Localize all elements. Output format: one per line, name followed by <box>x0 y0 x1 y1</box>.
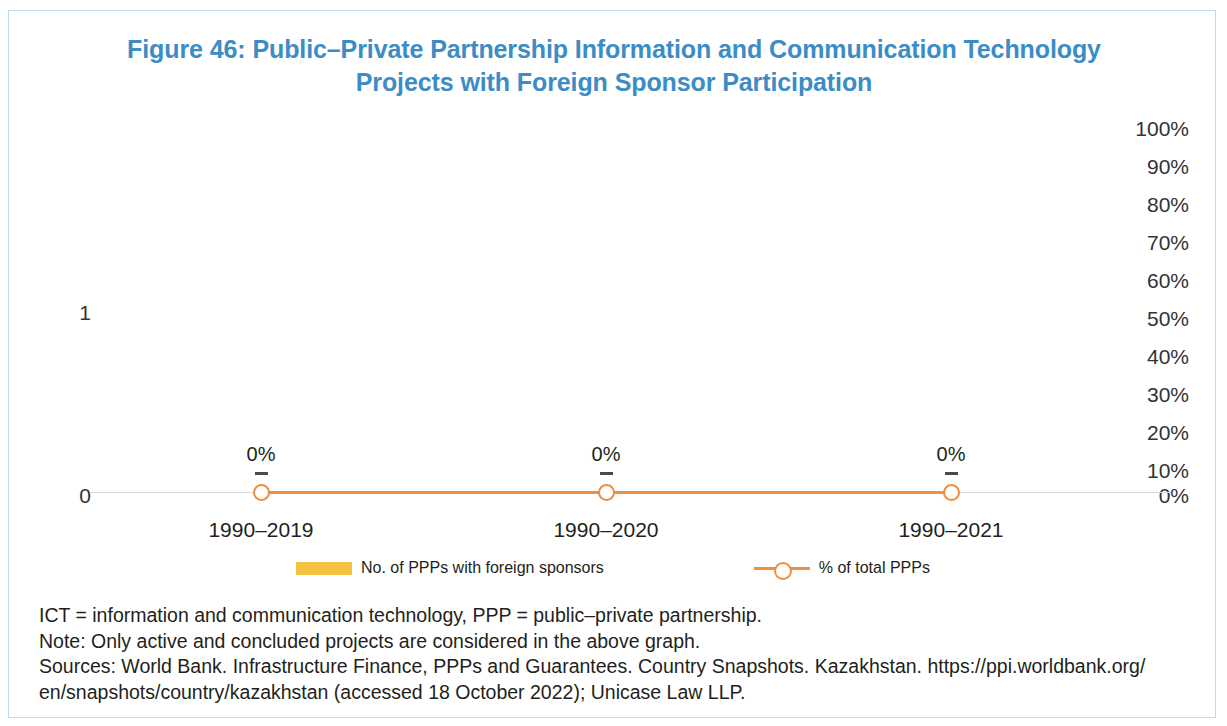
y-right-tick-10: 10% <box>1099 460 1189 481</box>
legend-line-marker-icon <box>754 561 810 576</box>
data-label-2: 0% <box>891 443 1011 466</box>
legend-bar-swatch-icon <box>296 562 352 575</box>
legend-label-ppp-count: No. of PPPs with foreign sponsors <box>361 559 604 577</box>
bar-stub-1 <box>600 472 613 475</box>
x-category-label-1: 1990–2020 <box>486 518 726 542</box>
legend-item-ppp-count[interactable]: No. of PPPs with foreign sponsors <box>296 559 604 577</box>
chart-legend: No. of PPPs with foreign sponsors % of t… <box>9 559 1217 577</box>
data-marker-1[interactable] <box>598 484 615 501</box>
bar-stub-2 <box>945 472 958 475</box>
figure-notes: ICT = information and communication tech… <box>39 603 1199 705</box>
note-sources-line-1: Sources: World Bank. Infrastructure Fina… <box>39 654 1199 680</box>
data-marker-2[interactable] <box>943 484 960 501</box>
data-label-1: 0% <box>546 443 666 466</box>
y-right-tick-40: 40% <box>1099 346 1189 367</box>
y-right-tick-50: 50% <box>1099 308 1189 329</box>
y-right-tick-80: 80% <box>1099 194 1189 215</box>
bar-stub-0 <box>255 472 268 475</box>
y-right-tick-0: 0% <box>1099 485 1189 506</box>
y-left-tick-1: 1 <box>31 302 91 323</box>
y-right-tick-60: 60% <box>1099 270 1189 291</box>
legend-item-percent-total[interactable]: % of total PPPs <box>754 559 930 577</box>
y-left-tick-0: 0 <box>31 485 91 506</box>
note-general: Note: Only active and concluded projects… <box>39 629 1199 655</box>
x-category-label-2: 1990–2021 <box>831 518 1071 542</box>
legend-label-percent-total: % of total PPPs <box>819 559 930 577</box>
y-right-tick-30: 30% <box>1099 384 1189 405</box>
data-marker-0[interactable] <box>253 484 270 501</box>
y-right-tick-100: 100% <box>1099 118 1189 139</box>
data-label-0: 0% <box>201 443 321 466</box>
note-abbreviations: ICT = information and communication tech… <box>39 603 1199 629</box>
x-category-label-0: 1990–2019 <box>141 518 381 542</box>
y-right-tick-90: 90% <box>1099 156 1189 177</box>
figure-frame: Figure 46: Public–Private Partnership In… <box>8 10 1216 718</box>
note-sources-line-2: en/snapshots/country/kazakhstan (accesse… <box>39 680 1199 706</box>
y-right-tick-70: 70% <box>1099 232 1189 253</box>
y-right-tick-20: 20% <box>1099 422 1189 443</box>
